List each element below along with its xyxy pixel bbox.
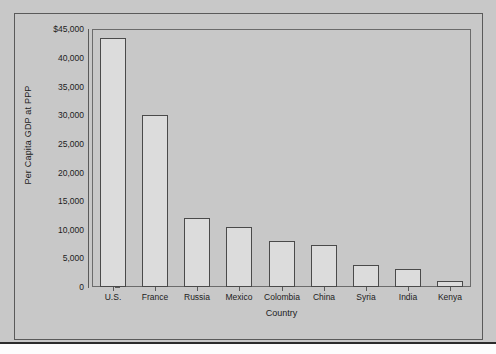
bar-u-s bbox=[100, 38, 126, 287]
x-tickmark-8 bbox=[450, 287, 451, 291]
x-tick-label-5: China bbox=[313, 292, 335, 302]
bar-mexico bbox=[226, 227, 252, 287]
bar-syria bbox=[353, 265, 379, 287]
x-tick-label-1: France bbox=[142, 292, 168, 302]
x-tickmark-4 bbox=[282, 287, 283, 291]
x-tickmark-7 bbox=[408, 287, 409, 291]
x-tickmark-6 bbox=[366, 287, 367, 291]
x-tickmark-3 bbox=[239, 287, 240, 291]
x-tick-label-7: India bbox=[399, 292, 417, 302]
x-tick-label-0: U.S. bbox=[105, 292, 122, 302]
x-tick-label-2: Russia bbox=[184, 292, 210, 302]
x-tickmark-0 bbox=[113, 287, 114, 291]
bar-india bbox=[395, 269, 421, 287]
x-axis-title: Country bbox=[92, 308, 471, 318]
bar-russia bbox=[184, 218, 210, 287]
bar-colombia bbox=[269, 241, 295, 287]
x-tick-label-4: Colombia bbox=[264, 292, 300, 302]
x-tickmark-2 bbox=[197, 287, 198, 291]
x-tickmark-5 bbox=[324, 287, 325, 291]
bar-france bbox=[142, 115, 168, 287]
x-tickmark-1 bbox=[155, 287, 156, 291]
bar-china bbox=[311, 245, 337, 287]
x-tick-label-3: Mexico bbox=[226, 292, 253, 302]
x-tick-label-6: Syria bbox=[356, 292, 375, 302]
x-tick-label-8: Kenya bbox=[438, 292, 462, 302]
page-canvas: Per Capita GDP at PPP $45,000 40,000 35,… bbox=[0, 0, 496, 354]
